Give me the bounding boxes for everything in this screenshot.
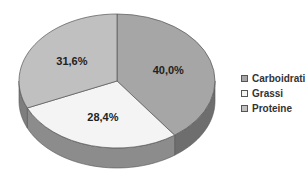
legend-item-carboidrati: Carboidrati — [241, 72, 305, 85]
legend-item-grassi: Grassi — [241, 87, 305, 100]
legend-swatch-carboidrati — [241, 75, 248, 82]
slice-label-grassi: 28,4% — [87, 111, 118, 123]
legend-label-carboidrati: Carboidrati — [252, 72, 305, 85]
slice-label-proteine: 31,6% — [56, 55, 87, 67]
legend-swatch-grassi — [241, 90, 248, 97]
legend-swatch-proteine — [241, 105, 248, 112]
legend-item-proteine: Proteine — [241, 102, 305, 115]
legend: Carboidrati Grassi Proteine — [241, 72, 305, 117]
legend-label-grassi: Grassi — [252, 87, 283, 100]
slice-label-carboidrati: 40,0% — [153, 64, 184, 76]
legend-label-proteine: Proteine — [252, 102, 292, 115]
pie-slices — [19, 14, 215, 148]
